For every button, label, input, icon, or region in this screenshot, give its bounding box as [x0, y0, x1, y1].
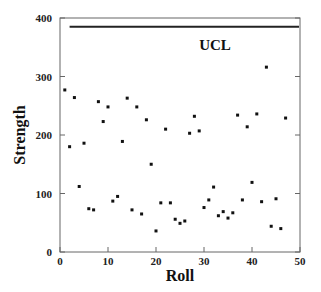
- data-point: [241, 198, 244, 201]
- data-point: [222, 210, 225, 213]
- data-points: [63, 66, 287, 233]
- ucl-label: UCL: [199, 37, 231, 53]
- y-axis-title: Strength: [11, 105, 29, 164]
- x-tick-label: 30: [199, 255, 211, 267]
- data-point: [63, 88, 66, 91]
- data-point: [251, 181, 254, 184]
- y-tick-label: 400: [36, 12, 53, 24]
- data-point: [207, 198, 210, 201]
- data-point: [126, 97, 129, 100]
- data-point: [260, 200, 263, 203]
- data-point: [73, 96, 76, 99]
- data-point: [188, 132, 191, 135]
- data-point: [193, 115, 196, 118]
- data-point: [116, 195, 119, 198]
- data-point: [145, 118, 148, 121]
- x-tick-label: 40: [247, 255, 259, 267]
- data-point: [102, 120, 105, 123]
- data-point: [87, 207, 90, 210]
- plot-frame: [60, 18, 300, 252]
- data-point: [212, 186, 215, 189]
- data-point: [279, 227, 282, 230]
- data-point: [270, 225, 273, 228]
- y-tick-label: 300: [36, 71, 53, 83]
- data-point: [107, 105, 110, 108]
- control-chart: 0100200300400 01020304050 UCL Roll Stren…: [0, 0, 321, 292]
- y-tick-label: 100: [36, 188, 53, 200]
- x-tick-label: 10: [103, 255, 115, 267]
- data-point: [131, 208, 134, 211]
- data-point: [78, 185, 81, 188]
- data-point: [275, 197, 278, 200]
- data-point: [150, 163, 153, 166]
- y-tick-label: 200: [36, 129, 53, 141]
- data-point: [97, 100, 100, 103]
- data-point: [164, 128, 167, 131]
- data-point: [255, 112, 258, 115]
- data-point: [155, 229, 158, 232]
- data-point: [236, 114, 239, 117]
- data-point: [92, 208, 95, 211]
- data-point: [68, 145, 71, 148]
- data-point: [231, 211, 234, 214]
- data-point: [265, 66, 268, 69]
- data-point: [174, 218, 177, 221]
- data-point: [169, 201, 172, 204]
- data-point: [227, 217, 230, 220]
- x-axis-title: Roll: [166, 267, 195, 284]
- data-point: [159, 201, 162, 204]
- y-tick-label: 0: [47, 246, 53, 258]
- x-tick-label: 50: [295, 255, 307, 267]
- data-point: [217, 214, 220, 217]
- data-point: [183, 219, 186, 222]
- y-axis: 0100200300400: [36, 12, 301, 258]
- x-tick-label: 0: [57, 255, 63, 267]
- data-point: [111, 200, 114, 203]
- data-point: [83, 142, 86, 145]
- data-point: [121, 140, 124, 143]
- data-point: [179, 222, 182, 225]
- data-point: [198, 129, 201, 132]
- data-point: [284, 117, 287, 120]
- data-point: [246, 125, 249, 128]
- data-point: [203, 206, 206, 209]
- x-axis: 01020304050: [57, 247, 306, 267]
- data-point: [135, 105, 138, 108]
- data-point: [140, 212, 143, 215]
- x-tick-label: 20: [151, 255, 163, 267]
